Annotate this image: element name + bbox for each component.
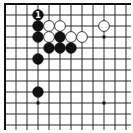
white-stone: [44, 32, 55, 43]
white-stone: [99, 21, 110, 32]
white-stone: [44, 21, 55, 32]
white-stone: [77, 32, 88, 43]
go-board-canvas: 1: [0, 0, 133, 133]
star-point: [103, 36, 106, 39]
white-stone: [66, 32, 77, 43]
white-stone: [55, 21, 66, 32]
black-stone: [44, 43, 55, 54]
move-number-label: 1: [35, 11, 41, 20]
black-stone: 1: [33, 10, 44, 21]
star-point: [37, 102, 40, 105]
star-point: [103, 102, 106, 105]
black-stone: [66, 43, 77, 54]
black-stone: [33, 54, 44, 65]
black-stone: [33, 21, 44, 32]
black-stone: [33, 87, 44, 98]
black-stone: [55, 32, 66, 43]
go-board-diagram: 1: [0, 0, 133, 133]
black-stone: [33, 32, 44, 43]
black-stone: [55, 43, 66, 54]
